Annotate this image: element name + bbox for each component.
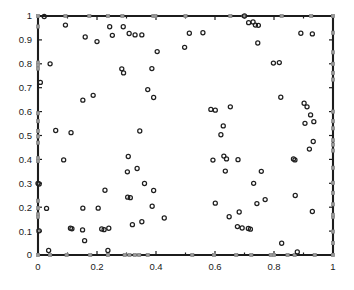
boundary-node [88, 14, 91, 17]
boundary-node [36, 253, 39, 256]
x-tick-label: 0.2 [90, 261, 103, 272]
boundary-node [64, 14, 67, 17]
boundary-node [331, 62, 334, 65]
boundary-node [331, 139, 334, 142]
boundary-node [331, 149, 334, 152]
boundary-node [272, 253, 275, 256]
plot-canvas: 00.10.20.30.40.50.60.70.80.91 00.20.40.6… [0, 0, 354, 290]
scatter-plot-figure: 00.10.20.30.40.50.60.70.80.91 00.20.40.6… [0, 0, 354, 290]
boundary-node [331, 203, 334, 206]
boundary-node [269, 253, 272, 256]
y-tick-label: 0.5 [19, 130, 32, 141]
boundary-node [286, 253, 289, 256]
x-tick-label: 0 [35, 261, 40, 272]
boundary-node [235, 253, 238, 256]
boundary-node [121, 14, 124, 17]
y-tick-label: 0.8 [19, 58, 32, 69]
boundary-node [331, 51, 334, 54]
boundary-node [146, 253, 149, 256]
boundary-node [331, 31, 334, 34]
boundary-node [184, 14, 187, 17]
boundary-node [36, 160, 39, 163]
boundary-node [331, 230, 334, 233]
boundary-node [331, 14, 334, 17]
boundary-node [106, 253, 109, 256]
boundary-node [331, 191, 334, 194]
y-tick-label: 0.1 [19, 226, 32, 237]
boundary-node [36, 120, 39, 123]
boundary-node [36, 112, 39, 115]
boundary-node [36, 207, 39, 210]
boundary-node [36, 129, 39, 132]
boundary-node [313, 253, 316, 256]
boundary-node [36, 25, 39, 28]
x-tick-label: 0.8 [267, 261, 280, 272]
boundary-node [331, 120, 334, 123]
boundary-node [65, 253, 68, 256]
boundary-node [36, 14, 39, 17]
boundary-node [36, 141, 39, 144]
boundary-node [310, 14, 313, 17]
boundary-node [229, 14, 232, 17]
boundary-node [106, 14, 109, 17]
boundary-node [49, 253, 52, 256]
boundary-node [191, 253, 194, 256]
boundary-node [128, 253, 131, 256]
y-tick-label: 0.4 [19, 154, 32, 165]
boundary-node [331, 110, 334, 113]
y-tick-label: 0 [27, 249, 32, 260]
x-tick-label: 1 [330, 261, 335, 272]
boundary-node [138, 253, 141, 256]
boundary-node [331, 213, 334, 216]
y-tick-label: 0.3 [19, 178, 32, 189]
boundary-node [36, 67, 39, 70]
boundary-node [213, 253, 216, 256]
boundary-node [331, 78, 334, 81]
boundary-node [280, 14, 283, 17]
y-tick-label: 1 [27, 10, 32, 21]
boundary-node [36, 215, 39, 218]
boundary-node [133, 253, 136, 256]
boundary-node [36, 63, 39, 66]
y-tick-label: 0.7 [19, 82, 32, 93]
boundary-node [331, 143, 334, 146]
boundary-node [154, 14, 157, 17]
y-tick-label: 0.2 [19, 202, 32, 213]
boundary-node [331, 127, 334, 130]
plot-background [0, 0, 354, 290]
boundary-node [89, 253, 92, 256]
boundary-node [123, 253, 126, 256]
boundary-node [36, 199, 39, 202]
boundary-node [331, 71, 334, 74]
boundary-node [331, 181, 334, 184]
boundary-node [331, 242, 334, 245]
boundary-node [36, 135, 39, 138]
y-tick-label: 0.9 [19, 34, 32, 45]
x-tick-label: 0.4 [149, 261, 162, 272]
x-tick-label: 0.6 [208, 261, 221, 272]
boundary-node [250, 253, 253, 256]
boundary-node [331, 166, 334, 169]
y-tick-label: 0.6 [19, 106, 32, 117]
boundary-node [331, 253, 334, 256]
